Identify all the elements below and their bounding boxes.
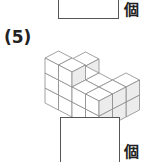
answer-unit-label: 個 [124,145,139,160]
answer-box[interactable] [60,117,120,162]
